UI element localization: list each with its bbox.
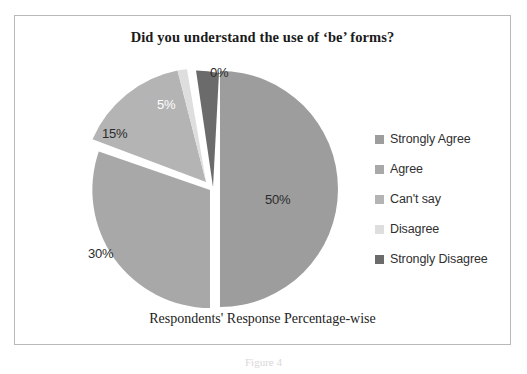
legend-label: Agree — [390, 162, 423, 176]
legend-swatch-icon — [375, 195, 384, 204]
figure-caption: Figure 4 — [0, 356, 527, 368]
legend-item-strongly-agree[interactable]: Strongly Agree — [375, 124, 507, 154]
chart-title: Did you understand the use of ‘be’ forms… — [15, 29, 510, 46]
legend-swatch-icon — [375, 225, 384, 234]
pie-chart: 0% 5% 15% 30% 50% — [65, 64, 365, 314]
pie-label-strongly-disagree: 0% — [210, 65, 228, 80]
legend-label: Can't say — [390, 192, 441, 206]
legend-label: Strongly Disagree — [390, 252, 488, 266]
pie-label-agree: 30% — [88, 246, 113, 261]
pie-svg — [65, 64, 365, 314]
chart-axis-caption: Respondents' Response Percentage-wise — [15, 311, 510, 327]
legend-swatch-icon — [375, 255, 384, 264]
legend-item-agree[interactable]: Agree — [375, 154, 507, 184]
pie-slice-strongly-agree[interactable] — [220, 71, 338, 307]
pie-label-cant-say: 15% — [102, 126, 127, 141]
legend-label: Disagree — [390, 222, 439, 236]
pie-label-disagree: 5% — [157, 97, 175, 112]
legend-swatch-icon — [375, 135, 384, 144]
legend-item-disagree[interactable]: Disagree — [375, 214, 507, 244]
legend-item-cant-say[interactable]: Can't say — [375, 184, 507, 214]
pie-label-strongly-agree: 50% — [265, 192, 290, 207]
legend-label: Strongly Agree — [390, 132, 471, 146]
legend-item-strongly-disagree[interactable]: Strongly Disagree — [375, 244, 507, 274]
chart-legend: Strongly Agree Agree Can't say Disagree … — [375, 124, 507, 274]
legend-swatch-icon — [375, 165, 384, 174]
chart-frame: Did you understand the use of ‘be’ forms… — [14, 15, 511, 345]
